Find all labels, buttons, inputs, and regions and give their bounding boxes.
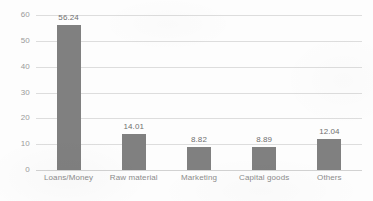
bar-value-label: 8.89 (256, 136, 272, 144)
y-tick-label: 50 (4, 37, 30, 45)
x-category-label: Capital goods (232, 174, 297, 182)
bar-group: 8.82 (166, 15, 231, 170)
axis-baseline (36, 170, 362, 171)
bar (317, 139, 341, 170)
y-tick-label: 10 (4, 140, 30, 148)
bar-group: 8.89 (232, 15, 297, 170)
bar-value-label: 14.01 (124, 123, 145, 131)
bar-group: 12.04 (297, 15, 362, 170)
plot-area: 56.2414.018.828.8912.04 (36, 15, 362, 170)
y-tick-label: 60 (4, 11, 30, 19)
y-tick-label: 30 (4, 89, 30, 97)
bar-group: 56.24 (36, 15, 101, 170)
bar-value-label: 12.04 (319, 128, 340, 136)
y-tick-label: 20 (4, 114, 30, 122)
bar-group: 14.01 (101, 15, 166, 170)
bar (252, 147, 276, 170)
x-category-label: Others (297, 174, 362, 182)
bar (57, 25, 81, 170)
bar-value-label: 56.24 (58, 14, 79, 22)
bar (187, 147, 211, 170)
y-tick-label: 40 (4, 63, 30, 71)
bar (122, 134, 146, 170)
x-axis-category-labels: Loans/MoneyRaw materialMarketingCapital … (36, 174, 362, 188)
x-category-label: Marketing (166, 174, 231, 182)
x-category-label: Raw material (101, 174, 166, 182)
y-tick-label: 0 (4, 166, 30, 174)
x-category-label: Loans/Money (36, 174, 101, 182)
bar-chart: 0102030405060 56.2414.018.828.8912.04 Lo… (0, 0, 373, 201)
bar-value-label: 8.82 (191, 136, 207, 144)
